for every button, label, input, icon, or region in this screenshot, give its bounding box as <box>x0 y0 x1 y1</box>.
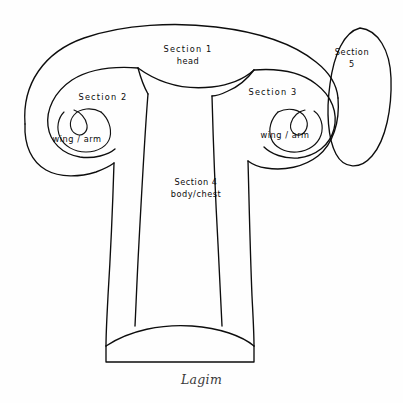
figure-caption: Lagim <box>0 372 403 387</box>
label-section2: Section 2 <box>64 92 142 104</box>
label-section4-subtitle: body/chest <box>150 189 242 201</box>
label-section2-title: Section 2 <box>64 92 142 104</box>
outline-left-spiral-inner-curl <box>70 109 101 135</box>
label-section5: Section 5 <box>325 47 379 70</box>
label-section1-title: Section 1 <box>140 44 236 56</box>
lagim-figure: Section 1 head Section 2 wing / arm Sect… <box>0 0 403 403</box>
label-section3-wing-arm: wing / arm <box>250 130 320 142</box>
outline-body-right-outer-edge <box>248 161 254 346</box>
outline-head-inner-arc-center <box>138 68 254 88</box>
label-section5-title: Section <box>325 47 379 59</box>
label-section3-title: Section 3 <box>234 87 312 99</box>
outline-right-spiral-middle <box>254 70 335 159</box>
outline-base-bottom-edge <box>106 346 254 362</box>
outline-left-spiral-outer <box>25 124 114 176</box>
label-section2-subtitle: wing / arm <box>42 134 112 146</box>
label-section1-subtitle: head <box>140 56 236 68</box>
label-section5-subtitle: 5 <box>325 59 379 71</box>
label-section4-title: Section 4 <box>150 177 242 189</box>
outline-body-left-outer-edge <box>106 163 114 346</box>
label-section4: Section 4 body/chest <box>150 177 242 200</box>
label-section1: Section 1 head <box>140 44 236 67</box>
outline-base-upper-arc <box>106 326 254 346</box>
label-section3-subtitle: wing / arm <box>250 130 320 142</box>
label-section2-wing-arm: wing / arm <box>42 134 112 146</box>
outline-body-left-divider <box>135 94 148 326</box>
label-section3: Section 3 <box>234 87 312 99</box>
outline-body-right-divider <box>212 96 222 326</box>
